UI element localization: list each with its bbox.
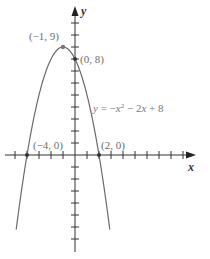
x-intercept-right-label: (2, 0) xyxy=(101,139,125,152)
equation-label: y = −x2 − 2x + 8 xyxy=(92,102,164,114)
x-intercept-left-point xyxy=(25,153,29,157)
x-axis-arrow-icon xyxy=(186,152,196,159)
y-intercept-label: (0, 8) xyxy=(80,53,104,66)
y-intercept-point xyxy=(73,57,77,61)
y-axis-label: y xyxy=(79,4,87,18)
vertex-label: (−1, 9) xyxy=(29,30,59,43)
y-axis-arrow-icon xyxy=(72,6,79,16)
vertex-point xyxy=(61,45,65,49)
x-axis-label: x xyxy=(187,160,194,174)
x-intercept-left-label: (−4, 0) xyxy=(33,139,63,152)
parabola-chart: y x (−1, 9) (0, 8) y = −x2 − 2x + 8 (−4,… xyxy=(0,0,210,259)
y-axis xyxy=(71,6,79,252)
x-intercept-right-point xyxy=(97,153,101,157)
